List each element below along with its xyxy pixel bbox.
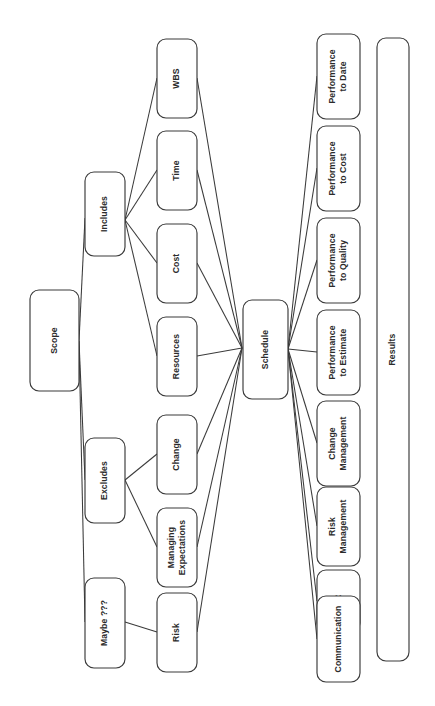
node-label-wbs: WBS <box>171 68 181 89</box>
connector-schedule-to-perf_date <box>288 76 317 349</box>
node-risk_mgmt[interactable]: RiskManagement <box>317 487 360 566</box>
connector-maybe-to-risk <box>125 622 157 632</box>
connector-scope-to-maybe <box>79 341 85 622</box>
node-label-excludes: Excludes <box>99 461 109 500</box>
node-label-chg_mgmt: Change <box>327 427 337 459</box>
connector-schedule-to-perf_est <box>288 349 317 352</box>
connector-includes-to-wbs <box>125 78 157 220</box>
node-perf_date[interactable]: Performanceto Date <box>317 34 360 119</box>
node-label-change: Change <box>171 438 181 470</box>
node-label-perf_est: Performance <box>327 325 337 379</box>
node-time[interactable]: Time <box>157 131 197 210</box>
node-perf_quality[interactable]: Performanceto Quality <box>317 218 360 303</box>
node-label-perf_quality: to Quality <box>338 240 348 281</box>
node-label-managing: Expectations <box>177 520 187 575</box>
node-label-risk_mgmt: Management <box>338 499 348 553</box>
node-label-perf_date: Performance <box>327 49 337 103</box>
node-label-perf_cost: to Cost <box>338 153 348 184</box>
node-results[interactable]: Results <box>377 38 409 661</box>
node-label-schedule: Schedule <box>260 330 270 369</box>
diagram-canvas: ScopeIncludesExcludesMaybe ???WBSTimeCos… <box>0 0 435 706</box>
node-change[interactable]: Change <box>157 415 197 494</box>
node-perf_est[interactable]: Performanceto Estimate <box>317 310 360 395</box>
node-risk[interactable]: Risk <box>157 593 197 672</box>
connector-schedule-to-hr <box>288 349 317 601</box>
node-cost[interactable]: Cost <box>157 224 197 303</box>
node-label-time: Time <box>171 160 181 181</box>
node-communication[interactable]: Communication <box>317 596 360 682</box>
connector-schedule-to-communication <box>288 349 317 639</box>
node-label-perf_est: to Estimate <box>338 328 348 376</box>
node-scope[interactable]: Scope <box>30 290 79 391</box>
connector-change-to-schedule <box>197 348 242 454</box>
node-label-resources: Resources <box>171 334 181 379</box>
node-label-results: Results <box>387 333 397 365</box>
node-label-chg_mgmt: Management <box>338 416 348 470</box>
node-resources[interactable]: Resources <box>157 317 197 396</box>
node-managing[interactable]: ManagingExpectations <box>157 508 197 587</box>
connector-scope-to-includes <box>79 218 85 341</box>
connector-schedule-to-perf_cost <box>288 168 317 349</box>
connector-time-to-schedule <box>197 170 242 348</box>
node-schedule[interactable]: Schedule <box>243 300 288 399</box>
node-label-perf_date: to Date <box>338 61 348 91</box>
connector-includes-to-resources <box>125 220 157 356</box>
connector-wbs-to-schedule <box>197 78 242 348</box>
node-chg_mgmt[interactable]: ChangeManagement <box>317 401 360 486</box>
connector-excludes-to-managing <box>125 480 157 547</box>
node-includes[interactable]: Includes <box>85 172 125 256</box>
connector-schedule-to-risk_mgmt <box>288 349 317 526</box>
node-excludes[interactable]: Excludes <box>85 438 125 523</box>
connector-resources-to-schedule <box>197 348 242 356</box>
node-wbs[interactable]: WBS <box>157 39 197 118</box>
connector-managing-to-schedule <box>197 348 242 547</box>
node-label-perf_quality: Performance <box>327 233 337 287</box>
connector-risk-to-schedule <box>197 348 242 632</box>
node-label-risk: Risk <box>171 623 181 642</box>
node-label-scope: Scope <box>49 327 59 354</box>
node-label-includes: Includes <box>99 196 109 232</box>
connector-includes-to-time <box>125 170 157 220</box>
node-label-communication: Communication <box>333 606 343 673</box>
connector-excludes-to-change <box>125 454 157 480</box>
node-label-risk_mgmt: Risk <box>327 517 337 536</box>
node-perf_cost[interactable]: Performanceto Cost <box>317 126 360 211</box>
node-layer: ScopeIncludesExcludesMaybe ???WBSTimeCos… <box>30 34 409 682</box>
node-label-managing: Managing <box>166 527 176 568</box>
node-label-maybe: Maybe ??? <box>99 600 109 646</box>
node-label-perf_cost: Performance <box>327 141 337 195</box>
node-label-cost: Cost <box>171 254 181 274</box>
node-maybe[interactable]: Maybe ??? <box>85 578 125 668</box>
flowchart-svg: ScopeIncludesExcludesMaybe ???WBSTimeCos… <box>0 0 435 706</box>
